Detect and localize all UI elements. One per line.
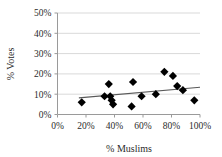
x-axis-title: % Muslims [106, 143, 152, 154]
x-tick-label-100: 100% [189, 121, 211, 131]
scatter-chart: 0%10%20%30%40%50% 0%20%40%60%80%100% % M… [0, 0, 222, 157]
x-tick-label-20: 20% [77, 121, 95, 131]
y-tick-label-50: 50% [34, 8, 52, 18]
x-tick-label-40: 40% [106, 121, 124, 131]
x-tick-label-80: 80% [163, 121, 181, 131]
x-tick-label-0: 0% [51, 121, 64, 131]
y-tick-label-10: 10% [34, 90, 52, 100]
y-tick-label-30: 30% [34, 49, 52, 59]
y-tick-label-0: 0% [39, 110, 52, 120]
chart-canvas: 0%10%20%30%40%50% 0%20%40%60%80%100% % M… [0, 0, 222, 157]
x-tick-label-60: 60% [134, 121, 152, 131]
y-tick-label-20: 20% [34, 69, 52, 79]
y-tick-label-40: 40% [34, 29, 52, 39]
y-axis-title: % Votes [5, 48, 16, 81]
